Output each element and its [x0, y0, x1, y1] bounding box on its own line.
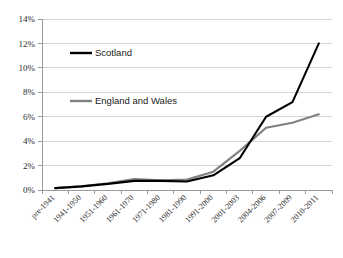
y-tick-labels: 0%2%4%6%8%10%12%14%: [19, 14, 36, 195]
chart-legend: ScotlandEngland and Wales: [70, 47, 177, 106]
y-tick-label: 2%: [23, 161, 36, 171]
y-tick-label: 8%: [23, 87, 36, 97]
legend-label: England and Wales: [95, 95, 177, 106]
y-tick-label: 4%: [23, 136, 36, 146]
y-tick-label: 14%: [19, 14, 36, 24]
series-line-scotland: [55, 43, 319, 188]
line-chart: 0%2%4%6%8%10%12%14% pre-19411941-1950195…: [0, 0, 343, 258]
y-tick-label: 12%: [19, 39, 36, 49]
y-tick-label: 0%: [23, 185, 36, 195]
x-tick-labels: pre-19411941-19501951-19601961-19701971-…: [29, 193, 320, 224]
x-tick-marks: [42, 190, 332, 194]
gridlines: [42, 19, 332, 166]
y-tick-marks: [38, 19, 42, 190]
chart-canvas: 0%2%4%6%8%10%12%14% pre-19411941-1950195…: [0, 0, 343, 258]
y-tick-label: 6%: [23, 112, 36, 122]
data-series: [55, 43, 319, 188]
series-line-england-and-wales: [55, 114, 319, 188]
legend-label: Scotland: [95, 47, 132, 58]
x-tick-label: 2007-2009: [262, 193, 293, 224]
y-tick-label: 10%: [19, 63, 36, 73]
x-tick-label: 2010-2011: [289, 193, 320, 224]
